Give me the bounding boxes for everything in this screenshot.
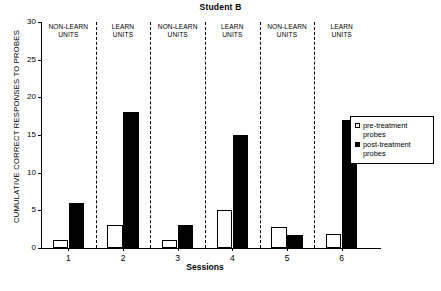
panel-header-line1: LEARN <box>93 23 153 31</box>
legend: pre-treatmentprobespost-treatmentprobes <box>350 116 434 164</box>
x-axis-tick <box>232 248 233 251</box>
bar-pre-treatment-session-2 <box>107 225 123 248</box>
page-title: Student B <box>0 2 441 12</box>
panel-header-line1: LEARN <box>312 23 372 31</box>
y-axis-tick-label: 0 <box>15 244 36 252</box>
legend-label-line1: pre-treatment <box>363 121 407 130</box>
bar-post-treatment-session-5 <box>287 235 303 248</box>
y-axis-tick-label: 5 <box>15 206 36 214</box>
x-axis-tick <box>342 248 343 251</box>
y-axis-tick <box>38 135 41 136</box>
y-axis-line <box>41 22 42 248</box>
panel-header-4: LEARNUNITS <box>202 23 262 39</box>
y-axis-tick-label: 30 <box>15 18 36 26</box>
panel-header-5: NON-LEARNUNITS <box>257 23 317 39</box>
y-axis-tick-label: 10 <box>15 169 36 177</box>
panel-header-line1: NON-LEARN <box>38 23 98 31</box>
bar-pre-treatment-session-4 <box>217 210 233 248</box>
panel-header-3: NON-LEARNUNITS <box>148 23 208 39</box>
panel-divider <box>260 22 261 248</box>
chart-figure: Student B CUMULATIVE CORRECT RESPONSES T… <box>0 0 441 291</box>
panel-header-line1: NON-LEARN <box>148 23 208 31</box>
plot-area: 051015202530 123456 NON-LEARNUNITSLEARNU… <box>41 22 369 248</box>
panel-divider <box>96 22 97 248</box>
panel-header-line2: UNITS <box>93 31 153 39</box>
panel-header-2: LEARNUNITS <box>93 23 153 39</box>
y-axis-tick-label: 15 <box>15 131 36 139</box>
panel-divider <box>150 22 151 248</box>
panel-header-1: NON-LEARNUNITS <box>38 23 98 39</box>
open-square-icon <box>355 123 360 128</box>
y-axis-tick-label: 25 <box>15 56 36 64</box>
y-axis-tick <box>38 97 41 98</box>
panel-header-line2: UNITS <box>38 31 98 39</box>
x-axis-line <box>41 248 381 249</box>
panel-header-line2: UNITS <box>312 31 372 39</box>
legend-label-line2: probes <box>363 130 407 139</box>
panel-header-line2: UNITS <box>257 31 317 39</box>
bar-pre-treatment-session-3 <box>162 240 178 248</box>
bar-post-treatment-session-4 <box>233 135 249 248</box>
panel-header-line1: LEARN <box>202 23 262 31</box>
y-axis-tick-label: 20 <box>15 93 36 101</box>
legend-item-label: pre-treatmentprobes <box>363 121 407 139</box>
panel-header-6: LEARNUNITS <box>312 23 372 39</box>
y-axis-tick <box>38 210 41 211</box>
legend-label-line2: probes <box>363 149 411 158</box>
x-axis-tick <box>178 248 179 251</box>
x-axis-title: Sessions <box>41 262 369 272</box>
x-axis-tick <box>68 248 69 251</box>
panel-header-line2: UNITS <box>148 31 208 39</box>
bar-post-treatment-session-3 <box>178 225 194 248</box>
legend-item-pre-treatment: pre-treatmentprobes <box>355 121 429 139</box>
bar-post-treatment-session-1 <box>69 203 85 248</box>
legend-label-line1: post-treatment <box>363 140 411 149</box>
panel-header-line2: UNITS <box>202 31 262 39</box>
y-axis-tick <box>38 173 41 174</box>
x-axis-tick <box>123 248 124 251</box>
legend-item-post-treatment: post-treatmentprobes <box>355 140 429 158</box>
legend-item-label: post-treatmentprobes <box>363 140 411 158</box>
bar-pre-treatment-session-6 <box>326 234 342 248</box>
bar-post-treatment-session-2 <box>123 112 139 248</box>
y-axis-tick <box>38 248 41 249</box>
filled-square-icon <box>355 142 360 147</box>
panel-header-line1: NON-LEARN <box>257 23 317 31</box>
panel-divider <box>205 22 206 248</box>
bar-pre-treatment-session-1 <box>53 240 69 248</box>
panel-divider <box>314 22 315 248</box>
x-axis-tick <box>287 248 288 251</box>
bar-pre-treatment-session-5 <box>271 227 287 248</box>
y-axis-tick <box>38 60 41 61</box>
